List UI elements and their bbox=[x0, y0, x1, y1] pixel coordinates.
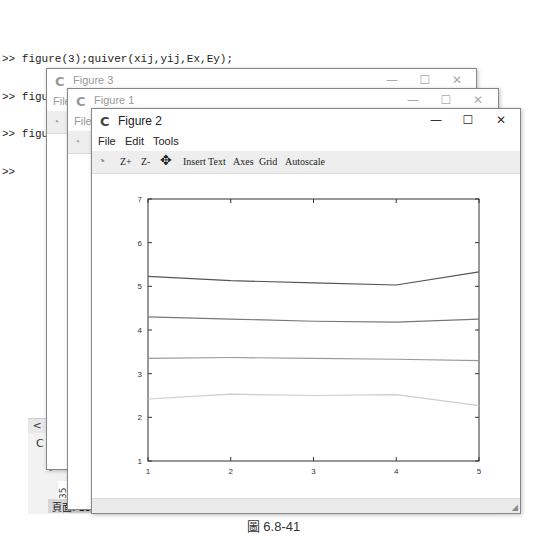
minimize-button[interactable]: — bbox=[426, 113, 446, 127]
insert-text-button[interactable]: Insert Text bbox=[183, 156, 226, 167]
axes-box bbox=[148, 199, 479, 461]
y-tick-label: 7 bbox=[138, 195, 143, 204]
resize-grip-icon[interactable]: ◢ bbox=[512, 503, 518, 512]
maximize-button[interactable]: ☐ bbox=[436, 93, 456, 107]
axes-button[interactable]: Axes bbox=[233, 156, 254, 167]
console-line: >> figure(3);quiver(xij,yij,Ex,Ey); bbox=[2, 53, 233, 66]
octave-logo-icon: C bbox=[100, 114, 110, 129]
pan-icon[interactable]: ✥ bbox=[160, 152, 172, 169]
window-title: Figure 1 bbox=[94, 94, 134, 106]
x-tick-label: 4 bbox=[394, 467, 399, 476]
partial-text: C bbox=[36, 437, 44, 450]
grid-button[interactable]: Grid bbox=[259, 156, 277, 167]
maximize-button[interactable]: ☐ bbox=[415, 73, 435, 87]
x-tick-label: 1 bbox=[146, 467, 151, 476]
x-tick-label: 3 bbox=[311, 467, 316, 476]
octave-logo-icon: C bbox=[55, 74, 65, 89]
contour-line bbox=[148, 317, 479, 322]
menu-edit[interactable]: Edit bbox=[125, 135, 144, 147]
maximize-button[interactable]: ☐ bbox=[458, 113, 478, 127]
menu-file[interactable]: File bbox=[74, 115, 92, 127]
minimize-button[interactable]: — bbox=[382, 73, 402, 87]
minimize-button[interactable]: — bbox=[403, 93, 423, 107]
y-tick-label: 4 bbox=[138, 326, 143, 335]
window-title: Figure 2 bbox=[118, 114, 162, 128]
x-tick-label: 5 bbox=[477, 467, 482, 476]
zoom-in-button[interactable]: Z+ bbox=[120, 156, 132, 167]
y-tick-label: 1 bbox=[138, 457, 143, 466]
window-title: Figure 3 bbox=[73, 74, 113, 86]
menu-file[interactable]: File bbox=[98, 135, 116, 147]
contour-plot[interactable]: 123456712345 bbox=[92, 174, 520, 499]
rotate-icon[interactable]: ◔ bbox=[98, 154, 105, 169]
toolbar: ◔ Z+ Z- ✥ Insert Text Axes Grid Autoscal… bbox=[92, 151, 520, 174]
y-tick-label: 3 bbox=[138, 370, 143, 379]
rotate-icon[interactable]: ◔ bbox=[74, 136, 80, 147]
menu-bar: File Edit Tools bbox=[92, 133, 520, 151]
figure-caption: 圖 6.8-41 bbox=[0, 516, 547, 535]
x-tick-label: 2 bbox=[229, 467, 234, 476]
y-tick-label: 2 bbox=[138, 413, 143, 422]
title-bar[interactable]: C Figure 2 — ☐ ✕ bbox=[92, 109, 520, 133]
contour-line bbox=[148, 358, 479, 361]
contour-line bbox=[148, 272, 479, 285]
close-button[interactable]: ✕ bbox=[468, 93, 488, 107]
scroll-left-button[interactable]: < bbox=[28, 419, 46, 433]
y-tick-label: 6 bbox=[138, 239, 143, 248]
close-button[interactable]: ✕ bbox=[447, 73, 467, 87]
menu-tools[interactable]: Tools bbox=[153, 135, 179, 147]
autoscale-button[interactable]: Autoscale bbox=[285, 156, 325, 167]
status-bar: ◢ bbox=[92, 498, 520, 513]
contour-line bbox=[148, 394, 479, 405]
close-button[interactable]: ✕ bbox=[491, 113, 511, 127]
y-tick-label: 5 bbox=[138, 282, 143, 291]
rotate-icon[interactable]: ◔ bbox=[53, 116, 59, 127]
figure-2-window[interactable]: C Figure 2 — ☐ ✕ File Edit Tools ◔ Z+ Z-… bbox=[91, 108, 521, 514]
octave-logo-icon: C bbox=[76, 94, 86, 109]
zoom-out-button[interactable]: Z- bbox=[141, 156, 150, 167]
